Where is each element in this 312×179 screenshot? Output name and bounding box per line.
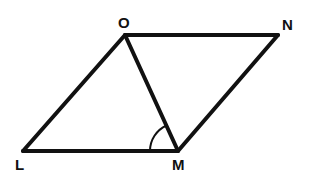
- angle-arc-LMO: [150, 126, 167, 152]
- edge-NM: [178, 35, 278, 151]
- diagonal-OM: [125, 35, 178, 151]
- vertex-label-M: M: [172, 156, 185, 173]
- vertex-label-O: O: [118, 14, 130, 31]
- vertex-label-N: N: [282, 16, 293, 33]
- edge-LO: [23, 35, 125, 151]
- parallelogram-diagram: O N L M: [0, 0, 312, 179]
- vertex-label-L: L: [15, 156, 24, 173]
